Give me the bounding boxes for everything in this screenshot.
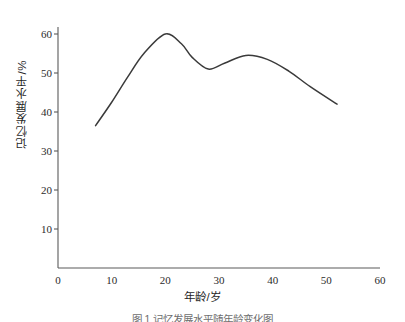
y-tick-label: 40 <box>30 107 52 118</box>
y-axis-title: 记忆发展水平/% <box>14 60 28 149</box>
x-tick-label: 0 <box>55 275 61 286</box>
figure-caption: 图 1 记忆发展水平随年龄变化图 <box>0 311 405 322</box>
x-tick-label: 20 <box>160 275 171 286</box>
y-tick-label: 50 <box>30 68 52 79</box>
y-tick-label: 10 <box>30 224 52 235</box>
memory-development-curve <box>96 34 338 126</box>
x-tick-label: 40 <box>267 275 278 286</box>
x-tick-label: 10 <box>106 275 117 286</box>
y-tick-label: 20 <box>30 185 52 196</box>
y-tick-marks <box>54 34 58 229</box>
x-tick-label: 30 <box>214 275 225 286</box>
y-tick-label: 60 <box>30 29 52 40</box>
x-axis-title: 年龄/岁 <box>0 288 405 304</box>
x-tick-label: 60 <box>375 275 386 286</box>
x-tick-label: 50 <box>321 275 332 286</box>
y-tick-label: 30 <box>30 146 52 157</box>
chart-figure: 102030405060 0102030405060 记忆发展水平/% 年龄/岁… <box>0 0 405 322</box>
axes-group <box>58 27 380 268</box>
